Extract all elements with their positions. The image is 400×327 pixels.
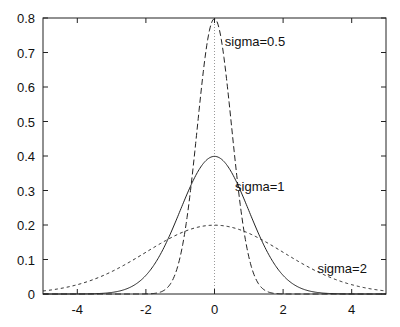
x-tick-label: 4 [348, 302, 355, 317]
y-tick-label: 0.3 [17, 184, 35, 199]
y-tick-label: 0.7 [17, 46, 35, 61]
x-tick-label: 0 [211, 302, 218, 317]
y-tick-label: 0.6 [17, 80, 35, 95]
y-tick-label: 0 [28, 287, 35, 302]
series-label: sigma=1 [235, 179, 285, 194]
x-tick-label: -4 [72, 302, 84, 317]
gaussian-chart: -4-202400.10.20.30.40.50.60.70.8sigma=0.… [0, 0, 400, 327]
y-tick-label: 0.2 [17, 218, 35, 233]
x-tick-label: -2 [140, 302, 152, 317]
series-label: sigma=0.5 [225, 34, 285, 49]
chart-canvas: -4-202400.10.20.30.40.50.60.70.8sigma=0.… [0, 0, 400, 327]
y-tick-label: 0.5 [17, 115, 35, 130]
y-tick-label: 0.8 [17, 11, 35, 26]
x-tick-label: 2 [279, 302, 286, 317]
y-tick-label: 0.4 [17, 149, 35, 164]
series-label: sigma=2 [317, 261, 367, 276]
y-tick-label: 0.1 [17, 253, 35, 268]
